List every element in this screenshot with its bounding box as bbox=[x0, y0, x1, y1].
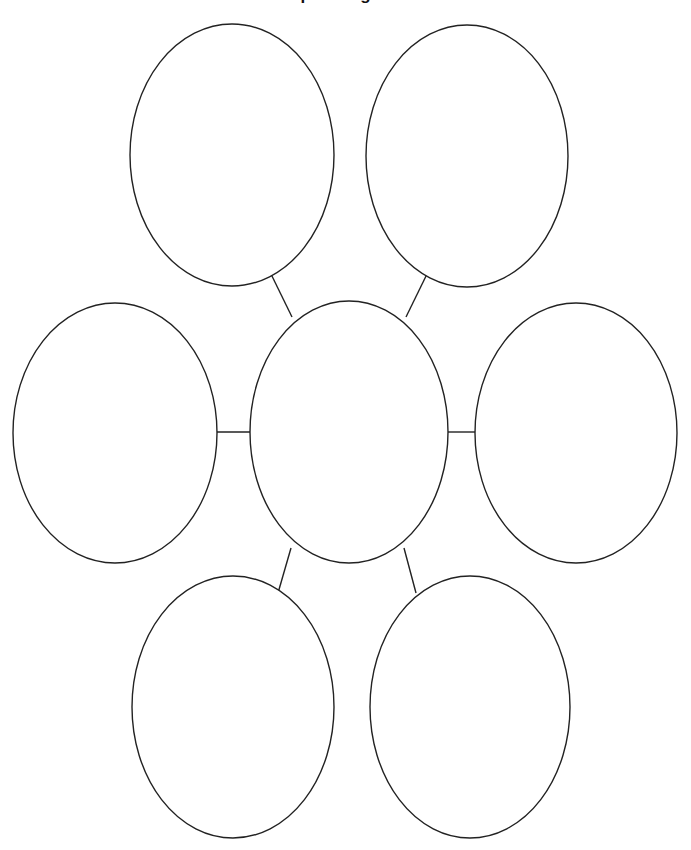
oval-shape-top-right[interactable] bbox=[366, 25, 568, 287]
oval-bottom-right[interactable] bbox=[370, 576, 570, 838]
connector-center-to-top-right bbox=[406, 272, 428, 317]
oval-shape-middle-right[interactable] bbox=[475, 303, 677, 563]
oval-shape-middle-left[interactable] bbox=[13, 303, 217, 563]
oval-shape-bottom-right[interactable] bbox=[370, 576, 570, 838]
oval-middle-right[interactable] bbox=[475, 303, 677, 563]
oval-shape-center[interactable] bbox=[250, 301, 448, 563]
oval-group bbox=[13, 24, 677, 838]
worksheet-canvas: Graphic Organizer bbox=[0, 0, 691, 850]
oval-shape-top-left[interactable] bbox=[130, 24, 334, 286]
connector-center-to-bottom-right bbox=[404, 548, 416, 593]
concept-map-diagram bbox=[0, 0, 691, 850]
oval-center[interactable] bbox=[250, 301, 448, 563]
connector-center-to-top-left bbox=[270, 272, 292, 317]
oval-top-left[interactable] bbox=[130, 24, 334, 286]
oval-middle-left[interactable] bbox=[13, 303, 217, 563]
oval-top-right[interactable] bbox=[366, 25, 568, 287]
oval-shape-bottom-left[interactable] bbox=[132, 576, 334, 838]
connector-center-to-bottom-left bbox=[278, 548, 291, 593]
oval-bottom-left[interactable] bbox=[132, 576, 334, 838]
